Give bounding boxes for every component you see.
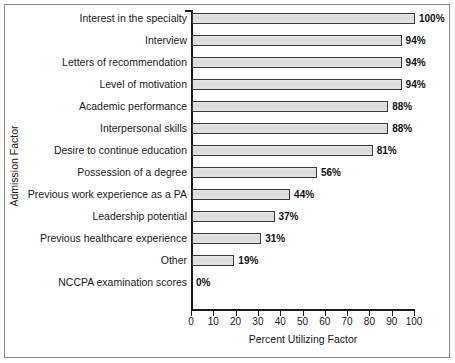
bar-value-label: 31% bbox=[265, 232, 285, 245]
category-label: Interest in the specialty bbox=[80, 12, 187, 25]
bar[interactable] bbox=[192, 35, 402, 46]
bar-value-label: 81% bbox=[377, 144, 397, 157]
bar-row: Other19% bbox=[0, 254, 455, 267]
category-label: Level of motivation bbox=[99, 78, 187, 91]
bar[interactable] bbox=[192, 189, 290, 200]
bar-row: Interest in the specialty100% bbox=[0, 12, 455, 25]
category-label: NCCPA examination scores bbox=[58, 276, 187, 289]
bar-value-label: 19% bbox=[238, 254, 258, 267]
category-label: Academic performance bbox=[79, 100, 187, 113]
x-axis-title: Percent Utilizing Factor bbox=[191, 333, 415, 345]
y-axis-title: Admission Factor bbox=[8, 106, 20, 226]
bar-row: Interpersonal skills88% bbox=[0, 122, 455, 135]
bar-row: Interview94% bbox=[0, 34, 455, 47]
x-axis-tick-label: 100 bbox=[406, 316, 423, 328]
x-axis-tick-label: 10 bbox=[208, 316, 219, 328]
category-label: Possession of a degree bbox=[77, 166, 187, 179]
bar[interactable] bbox=[192, 255, 234, 266]
x-axis-tick-label: 90 bbox=[386, 316, 397, 328]
bar[interactable] bbox=[192, 233, 261, 244]
category-label: Other bbox=[161, 254, 187, 267]
chart-figure: Interest in the specialty100%Interview94… bbox=[0, 0, 455, 363]
bar-value-label: 37% bbox=[279, 210, 299, 223]
bar-value-label: 94% bbox=[406, 78, 426, 91]
x-axis-tick-label: 50 bbox=[297, 316, 308, 328]
bar[interactable] bbox=[192, 123, 388, 134]
bar[interactable] bbox=[192, 79, 402, 90]
plot-area: Interest in the specialty100%Interview94… bbox=[0, 0, 455, 363]
bar-row: Leadership potential37% bbox=[0, 210, 455, 223]
bar-row: Previous healthcare experience31% bbox=[0, 232, 455, 245]
bar[interactable] bbox=[192, 145, 373, 156]
bar-value-label: 100% bbox=[419, 12, 445, 25]
x-axis-tick-label: 40 bbox=[275, 316, 286, 328]
x-axis-tick-label: 0 bbox=[188, 316, 194, 328]
x-axis-tick-label: 60 bbox=[319, 316, 330, 328]
bar[interactable] bbox=[192, 101, 388, 112]
x-axis-tick-label: 30 bbox=[252, 316, 263, 328]
category-label: Previous work experience as a PA bbox=[28, 188, 187, 201]
bar-value-label: 44% bbox=[294, 188, 314, 201]
x-axis-tick-label: 80 bbox=[364, 316, 375, 328]
bar[interactable] bbox=[192, 57, 402, 68]
x-axis-tick-label: 20 bbox=[230, 316, 241, 328]
bar-row: Previous work experience as a PA44% bbox=[0, 188, 455, 201]
bar-value-label: 88% bbox=[392, 122, 412, 135]
category-label: Desire to continue education bbox=[54, 144, 187, 157]
bar-row: Academic performance88% bbox=[0, 100, 455, 113]
bar-row: Desire to continue education81% bbox=[0, 144, 455, 157]
bar[interactable] bbox=[192, 167, 317, 178]
category-label: Interpersonal skills bbox=[100, 122, 187, 135]
bar-row: Possession of a degree56% bbox=[0, 166, 455, 179]
bar-row: Level of motivation94% bbox=[0, 78, 455, 91]
bar[interactable] bbox=[192, 13, 415, 24]
bar-row: Letters of recommendation94% bbox=[0, 56, 455, 69]
x-axis-tick-label: 70 bbox=[342, 316, 353, 328]
category-label: Interview bbox=[145, 34, 187, 47]
bar-value-label: 56% bbox=[321, 166, 341, 179]
bar-value-label: 0% bbox=[196, 276, 210, 289]
bar-value-label: 94% bbox=[406, 34, 426, 47]
bar[interactable] bbox=[192, 211, 275, 222]
bar-value-label: 94% bbox=[406, 56, 426, 69]
category-label: Previous healthcare experience bbox=[40, 232, 187, 245]
bar-value-label: 88% bbox=[392, 100, 412, 113]
bar-row: NCCPA examination scores0% bbox=[0, 276, 455, 289]
category-label: Letters of recommendation bbox=[62, 56, 187, 69]
category-label: Leadership potential bbox=[92, 210, 187, 223]
